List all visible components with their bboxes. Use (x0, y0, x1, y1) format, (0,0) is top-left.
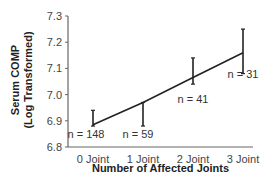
data-line (93, 53, 243, 125)
sample-size-annotation: n = 31 (228, 68, 259, 80)
y-tick-label: 7.3 (47, 10, 62, 22)
y-tick-label: 6.8 (47, 141, 62, 153)
y-axis-label-line1: Serum COMP (9, 31, 22, 128)
chart: 6.86.97.07.17.27.30 Joint1 Joint2 Joint3… (0, 0, 277, 188)
y-tick-label: 7.1 (47, 62, 62, 74)
sample-size-annotation: n = 148 (67, 128, 104, 140)
sample-size-annotation: n = 59 (123, 128, 154, 140)
y-axis-label: Serum COMP (Log Transformed) (2, 20, 42, 140)
y-tick-label: 6.9 (47, 115, 62, 127)
y-tick-label: 7.0 (47, 89, 62, 101)
sample-size-annotation: n = 41 (178, 93, 209, 105)
x-axis-label: Number of Affected Joints (68, 162, 253, 174)
y-tick-label: 7.2 (47, 36, 62, 48)
y-axis-label-line2: (Log Transformed) (22, 31, 35, 128)
